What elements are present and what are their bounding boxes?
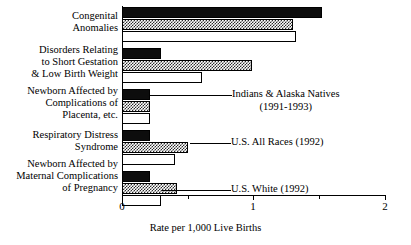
category-label-line: Maternal Complications xyxy=(16,170,118,182)
callout-leader-line xyxy=(190,143,231,144)
x-tick-label-2: 2 xyxy=(370,200,400,212)
bar-placenta-complications-us-white xyxy=(122,113,150,124)
bar-short-gestation-us-all-races xyxy=(122,60,252,71)
x-axis-title: Rate per 1,000 Live Births xyxy=(0,222,411,233)
bar-maternal-complications-indians-alaska-natives xyxy=(122,171,150,182)
x-tick-label-1: 1 xyxy=(238,200,268,212)
category-label-respiratory-distress: Respiratory Distress Syndrome xyxy=(33,129,122,153)
category-label-line: of Pregnancy xyxy=(16,182,118,194)
category-label-line: Newborn Affected by xyxy=(16,158,118,170)
callout-main-text: Indians & Alaska Natives xyxy=(232,88,340,99)
x-tick-label-0: 0 xyxy=(107,200,137,212)
bar-short-gestation-indians-alaska-natives xyxy=(122,48,161,59)
category-label-line: Congenital xyxy=(72,10,118,22)
category-label-congenital-anomalies: Congenital Anomalies xyxy=(72,10,122,34)
x-tick-0-5 xyxy=(188,195,189,199)
bar-chart: Congenital Anomalies Disorders Relating … xyxy=(0,0,411,245)
category-label-line: Newborn Affected by xyxy=(27,85,118,97)
callout-label-indians-alaska-natives: Indians & Alaska Natives (1991-1993) xyxy=(232,88,340,113)
category-label-line: Complications of xyxy=(27,97,118,109)
category-label-line: Anomalies xyxy=(72,22,118,34)
bar-respiratory-distress-us-white xyxy=(122,154,175,165)
category-label-placenta-complications: Newborn Affected by Complications of Pla… xyxy=(27,85,122,122)
bar-respiratory-distress-us-all-races xyxy=(122,142,188,153)
bar-congenital-anomalies-indians-alaska-natives xyxy=(122,7,322,18)
callout-label-us-white: U.S. White (1992) xyxy=(231,183,308,196)
callout-leader-line xyxy=(150,95,232,96)
callout-main-text: U.S. All Races (1992) xyxy=(231,136,323,147)
callout-sub-text: (1991-1993) xyxy=(232,101,340,114)
category-label-short-gestation: Disorders Relating to Short Gestation & … xyxy=(31,44,122,81)
callout-leader-line xyxy=(162,190,231,191)
bar-maternal-complications-us-all-races xyxy=(122,183,177,194)
category-label-line: & Low Birth Weight xyxy=(31,68,118,80)
callout-main-text: U.S. White (1992) xyxy=(231,183,308,194)
category-label-line: Syndrome xyxy=(33,141,118,153)
x-tick-1-5 xyxy=(319,195,320,199)
category-label-line: Disorders Relating xyxy=(31,44,118,56)
callout-label-us-all-races: U.S. All Races (1992) xyxy=(231,136,323,149)
category-label-maternal-complications: Newborn Affected by Maternal Complicatio… xyxy=(16,158,122,195)
bar-placenta-complications-us-all-races xyxy=(122,101,150,112)
bar-congenital-anomalies-us-all-races xyxy=(122,19,293,30)
y-axis-line xyxy=(122,6,123,196)
category-label-line: to Short Gestation xyxy=(31,56,118,68)
bar-short-gestation-us-white xyxy=(122,72,202,83)
bar-placenta-complications-indians-alaska-natives xyxy=(122,89,150,100)
bar-congenital-anomalies-us-white xyxy=(122,31,296,42)
category-label-line: Respiratory Distress xyxy=(33,129,118,141)
category-label-line: Placenta, etc. xyxy=(27,109,118,121)
bar-respiratory-distress-indians-alaska-natives xyxy=(122,130,150,141)
